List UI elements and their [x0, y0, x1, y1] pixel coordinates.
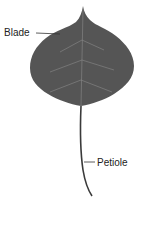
petiole-label: Petiole — [97, 157, 128, 168]
petiole-stem — [80, 106, 92, 196]
blade-label: Blade — [4, 27, 30, 38]
